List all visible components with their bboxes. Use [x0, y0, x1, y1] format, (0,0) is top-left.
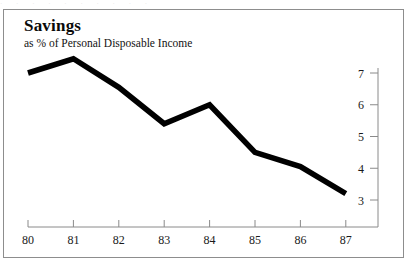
- line-chart-plot: 8081828384858687 76543: [4, 10, 405, 259]
- x-tick-label: 80: [22, 233, 34, 247]
- x-tick-label: 84: [204, 233, 216, 247]
- y-tick-label: 6: [358, 98, 364, 112]
- y-tick-label: 3: [358, 194, 364, 208]
- y-tick-label: 7: [358, 67, 364, 81]
- x-axis: 8081828384858687: [22, 220, 378, 247]
- y-tick-label: 5: [358, 130, 364, 144]
- y-tick-marks: [370, 73, 378, 200]
- x-tick-label: 83: [158, 233, 170, 247]
- x-tick-label: 85: [249, 233, 261, 247]
- x-tick-label: 81: [67, 233, 79, 247]
- savings-data-line: [28, 59, 346, 194]
- y-tick-label: 4: [358, 162, 364, 176]
- y-tick-label-group: 76543: [358, 67, 364, 208]
- x-tick-label: 82: [113, 233, 125, 247]
- chart-figure-frame: Savings as % of Personal Disposable Inco…: [3, 9, 404, 258]
- x-tick-label: 87: [340, 233, 352, 247]
- x-tick-label: 86: [294, 233, 306, 247]
- x-tick-marks: [28, 220, 346, 227]
- x-tick-label-group: 8081828384858687: [22, 233, 352, 247]
- y-axis: 76543: [358, 67, 378, 228]
- scan-artifact-strip: · · · · · · · · · ·: [0, 0, 410, 8]
